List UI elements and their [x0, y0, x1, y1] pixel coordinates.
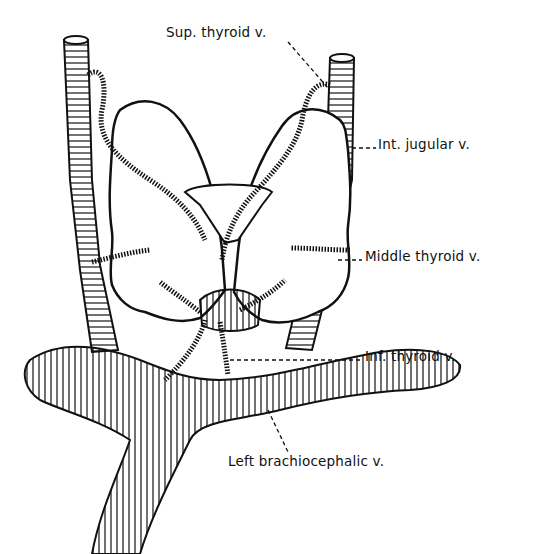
label-sup-thyroid-vein: Sup. thyroid v. [166, 26, 266, 40]
thyroid-veins-illustration [0, 0, 542, 554]
brachiocephalic-veins [25, 347, 460, 554]
label-middle-thyroid-vein: Middle thyroid v. [365, 250, 480, 264]
label-inf-thyroid-vein: Inf. thyroid v. [365, 350, 456, 364]
thyroid-gland [110, 101, 351, 331]
label-int-jugular-vein: Int. jugular v. [378, 138, 470, 152]
label-left-brachiocephalic-vein: Left brachiocephalic v. [228, 455, 384, 469]
